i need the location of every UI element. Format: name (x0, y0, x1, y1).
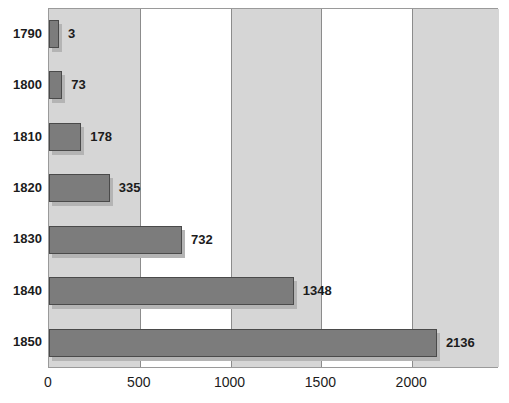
bar (49, 174, 110, 202)
bar (49, 226, 182, 254)
bar-row: 178 (49, 112, 497, 163)
bar-row: 3 (49, 9, 497, 60)
bar (49, 277, 294, 305)
x-tick-label-0: 0 (44, 372, 52, 392)
bar-value-label: 1348 (297, 277, 332, 305)
bar (49, 20, 59, 48)
y-axis-category-labels: 1790180018101820183018401850 (0, 8, 48, 368)
bar-value-label: 335 (113, 174, 141, 202)
x-axis-tick-labels: 0500100015002000 (0, 372, 509, 400)
bar (49, 71, 62, 99)
y-axis-label-1830: 1830 (4, 231, 48, 247)
bar-row: 335 (49, 163, 497, 214)
bar-value-label: 732 (185, 226, 213, 254)
y-axis-label-1840: 1840 (4, 283, 48, 299)
bar-row: 73 (49, 60, 497, 111)
bar-value-label: 3 (62, 20, 75, 48)
bar-value-label: 178 (84, 123, 112, 151)
bar-value-label: 73 (65, 71, 85, 99)
x-tick-label-1000: 1000 (214, 372, 245, 392)
bar (49, 329, 437, 357)
y-axis-label-1850: 1850 (4, 334, 48, 350)
x-tick-label-2000: 2000 (396, 372, 427, 392)
bar-row: 1348 (49, 266, 497, 317)
bar-chart: 37317833573213482136 1790180018101820183… (0, 0, 509, 403)
bar (49, 123, 81, 151)
plot-area: 37317833573213482136 (48, 8, 498, 368)
bar-value-label: 2136 (440, 329, 475, 357)
y-axis-label-1800: 1800 (4, 77, 48, 93)
bar-row: 2136 (49, 318, 497, 369)
y-axis-label-1790: 1790 (4, 26, 48, 42)
x-tick-label-1500: 1500 (305, 372, 336, 392)
x-tick-label-500: 500 (127, 372, 150, 392)
y-axis-label-1820: 1820 (4, 180, 48, 196)
bar-row: 732 (49, 215, 497, 266)
y-axis-label-1810: 1810 (4, 129, 48, 145)
